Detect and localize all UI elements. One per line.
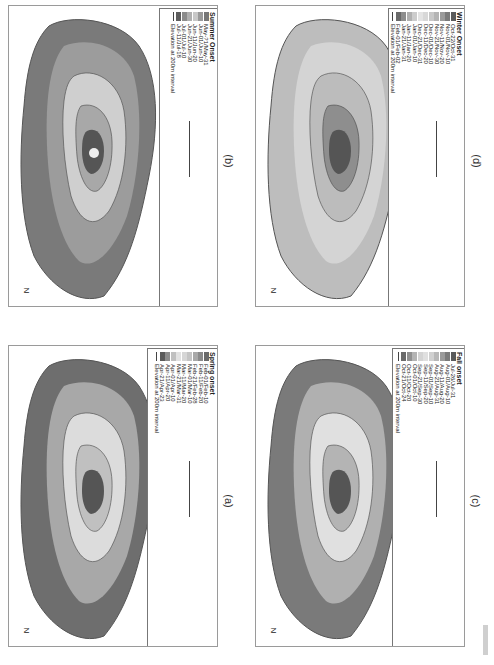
legend-elevation: Elevation at 200m interval <box>395 364 401 433</box>
legend-item: Feb-21/Feb-28 <box>192 364 198 404</box>
legend-item: Jun-11/Jun-20 <box>192 24 198 62</box>
caption-d: (d) <box>471 154 483 167</box>
legend-item: Mar-21/Mar-31 <box>176 364 182 404</box>
legend-d: Winter Onset Oct-22/Oct-31 Nov-01/Nov-10… <box>388 8 465 307</box>
legend-item: Sep-11/Sep-20 <box>423 364 429 404</box>
scan-artifact <box>483 625 488 655</box>
caption-a: (a) <box>223 494 235 507</box>
map-panel-a: Spring onset Feb-01/Feb-10 Feb-11/Feb-20… <box>8 345 218 647</box>
legend-item: Jan-11/Jan-20 <box>406 24 412 62</box>
legend-item: Dec-01/Dec-10 <box>428 24 434 64</box>
legend-item: Dec-11/Dec-20 <box>423 24 429 64</box>
scale-bar <box>189 121 190 177</box>
legend-item: Oct-11/Oct-20 <box>406 364 412 401</box>
legend-item: Jan-21/Jan-31 <box>401 24 407 62</box>
legend-item: Jun-01/Jun-10 <box>198 24 204 62</box>
legend-item: Jan-01/Jan-10 <box>412 24 418 62</box>
legend-title: Fall onset <box>456 352 463 644</box>
legend-item: Aug-21/Aug-31 <box>434 364 440 404</box>
legend-item: Nov-01/Nov-10 <box>445 24 451 64</box>
north-arrow-icon: N <box>269 288 278 294</box>
legend-item: Sep-01/Sep-10 <box>428 364 434 404</box>
legend-item: Jul-11/Jul-18 <box>176 24 182 58</box>
legend-item: Feb-01/Feb-10 <box>203 364 209 404</box>
legend-elevation: Elevation at 200m interval <box>154 364 160 433</box>
scale-bar <box>436 121 437 177</box>
legend-item: Mar-01/Mar-10 <box>187 364 193 404</box>
legend-item: Nov-11/Nov-20 <box>439 24 445 64</box>
legend-title: Summer Onset <box>209 12 216 304</box>
legend-item: Jul-01/Jul-10 <box>181 24 187 58</box>
legend-c: Fall onset Jul-26/Jul-31 Aug-01/Aug-10 A… <box>392 348 465 647</box>
legend-title: Spring onset <box>209 352 216 644</box>
legend-item: Oct-22/Oct-31 <box>450 24 456 62</box>
legend-item: Dec-21/Dec-31 <box>417 24 423 64</box>
map-panel-d: Winter Onset Oct-22/Oct-31 Nov-01/Nov-10… <box>255 5 465 307</box>
scale-bar <box>436 461 437 517</box>
legend-item: Oct-01/Oct-10 <box>412 364 418 402</box>
legend-item: Nov-21/Nov-30 <box>434 24 440 64</box>
legend-elevation: Elevation at 200m interval <box>170 24 176 93</box>
legend-item: Aug-11/Aug-20 <box>439 364 445 404</box>
north-arrow-icon: N <box>22 288 31 294</box>
legend-item: Apr-01/Apr-10 <box>170 364 176 402</box>
legend-elevation: Elevation at 200m interval <box>390 24 396 93</box>
legend-item: Mar-11/Mar-20 <box>181 364 187 403</box>
legend-item: Jul-26/Jul-31 <box>450 364 456 398</box>
north-arrow-icon: N <box>22 628 31 634</box>
legend-title: Winter Onset <box>456 12 463 304</box>
legend-item: Apr-21/Apr-23 <box>159 364 165 402</box>
caption-b: (b) <box>223 154 235 167</box>
north-arrow-icon: N <box>269 628 278 634</box>
legend-item: Apr-11/Apr-20 <box>165 364 171 401</box>
legend-item: Jun-21/Jun-30 <box>187 24 193 62</box>
scale-bar <box>189 461 190 517</box>
legend-item: Feb-11/Feb-20 <box>198 364 204 403</box>
map-panel-c: Fall onset Jul-26/Jul-31 Aug-01/Aug-10 A… <box>255 345 465 647</box>
legend-item: Oct-21/Oct-24 <box>401 364 407 402</box>
legend-item: May-?1/May-31 <box>203 24 209 66</box>
legend-item: Sep-21/Sep-30 <box>417 364 423 404</box>
map-panel-b: Summer Onset May-?1/May-31 Jun-01/Jun-10… <box>8 5 218 307</box>
legend-a: Spring onset Feb-01/Feb-10 Feb-11/Feb-20… <box>147 348 218 647</box>
caption-c: (c) <box>470 495 482 508</box>
legend-item: Aug-01/Aug-10 <box>445 364 451 404</box>
legend-item: Feb-01/Feb-02 <box>395 24 401 64</box>
